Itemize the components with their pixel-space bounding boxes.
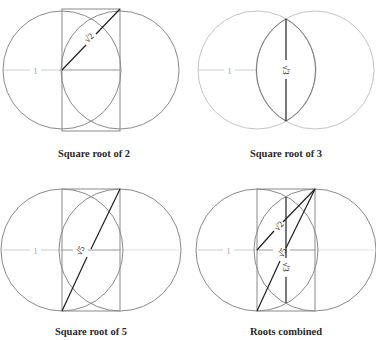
radius-label: 1 xyxy=(33,246,38,256)
panel-sqrt2: 1 √2 xyxy=(3,9,179,131)
sqrt3-label: √3 xyxy=(281,262,291,272)
sqrt2-line xyxy=(283,189,315,222)
sqrt2-line xyxy=(257,231,274,250)
radius-label: 1 xyxy=(227,66,232,76)
sqrt2-line xyxy=(96,9,120,34)
panel-sqrt5: 1 √5 xyxy=(1,189,181,311)
radius-label: 1 xyxy=(33,66,38,76)
caption-sqrt2: Square root of 2 xyxy=(0,148,188,159)
sqrt5-label: √5 xyxy=(74,244,87,257)
caption-combined: Roots combined xyxy=(192,326,376,337)
caption-sqrt3: Square root of 3 xyxy=(192,148,376,159)
sqrt2-line xyxy=(62,45,86,70)
sqrt5-line xyxy=(257,261,280,311)
caption-sqrt5: Square root of 5 xyxy=(0,326,185,337)
sqrt3-label: √3 xyxy=(281,65,291,75)
sqrt2-label: √2 xyxy=(82,31,96,45)
panel-sqrt3: 1 √3 xyxy=(198,11,374,129)
panel-combined: 1 √2 √5 √3 xyxy=(196,189,376,311)
sqrt5-line xyxy=(91,189,120,249)
radius-label: 1 xyxy=(226,246,231,256)
vesica-piscis-roots-diagram: 1 √2 1 √3 1 √5 xyxy=(0,0,376,340)
sqrt5-line xyxy=(62,257,87,311)
sqrt5-label: √5 xyxy=(276,246,289,259)
sqrt5-line xyxy=(286,189,315,248)
